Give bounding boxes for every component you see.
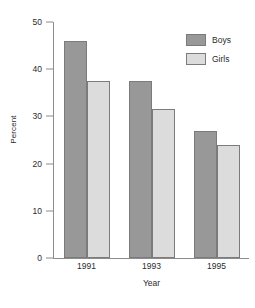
y-axis-tick-marks (46, 22, 53, 258)
legend-entry-girls: Girls (186, 52, 231, 65)
y-axis-tick-mark (46, 163, 53, 164)
legend-label: Boys (212, 35, 231, 45)
legend-swatch-girls (186, 53, 206, 65)
y-axis-title-text: Percent (9, 115, 18, 143)
x-axis-tick-label: 1993 (142, 261, 161, 271)
y-axis-title: Percent (2, 0, 24, 258)
legend-swatch-boys (186, 34, 206, 46)
y-axis-tick-mark (46, 22, 53, 23)
x-axis-line (53, 258, 249, 259)
y-axis-tick-label: 10 (33, 206, 42, 216)
bar-boys-1993 (129, 81, 152, 258)
y-axis-tick-mark (46, 258, 53, 259)
y-axis-tick-label: 40 (33, 64, 42, 74)
bar-girls-1991 (87, 81, 110, 258)
bar-group (129, 22, 175, 258)
y-axis-tick-label: 50 (33, 17, 42, 27)
bar-boys-1995 (194, 131, 217, 258)
y-axis-tick-mark (46, 116, 53, 117)
bar-boys-1991 (64, 41, 87, 258)
x-axis-tick-label: 1995 (207, 261, 226, 271)
y-axis-tick-mark (46, 69, 53, 70)
y-axis-tick-mark (46, 210, 53, 211)
x-axis-tick-labels: 199119931995 (54, 261, 249, 277)
bar-chart: Percent 01020304050 199119931995 Year Bo… (0, 0, 255, 308)
chart-legend: BoysGirls (186, 33, 231, 71)
bar-girls-1993 (152, 109, 175, 258)
y-axis-tick-label: 30 (33, 111, 42, 121)
bar-girls-1995 (217, 145, 240, 258)
x-axis-tick-label: 1991 (77, 261, 96, 271)
bar-group (64, 22, 110, 258)
y-axis-tick-labels: 01020304050 (22, 22, 46, 258)
y-axis-tick-label: 0 (37, 253, 42, 263)
legend-entry-boys: Boys (186, 33, 231, 46)
legend-label: Girls (212, 54, 229, 64)
x-axis-title: Year (54, 278, 249, 288)
y-axis-tick-label: 20 (33, 159, 42, 169)
